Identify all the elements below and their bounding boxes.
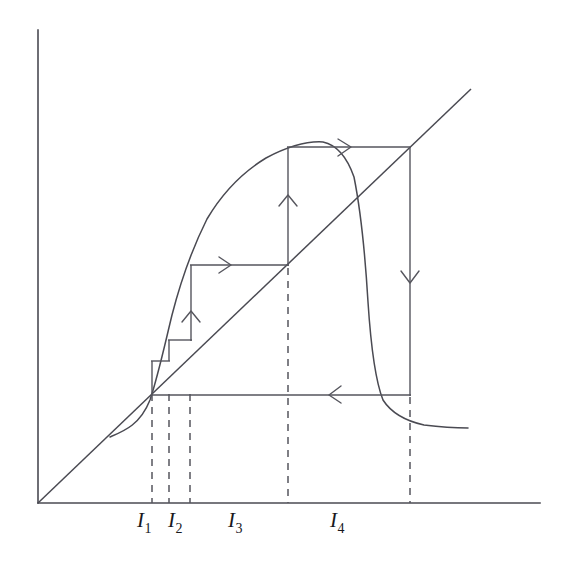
tick-label-I1-base: I xyxy=(137,508,144,532)
figure-canvas: I1 I2 I3 I4 xyxy=(0,0,565,574)
tick-label-I1: I1 xyxy=(137,508,152,537)
arrowheads-group xyxy=(182,139,419,403)
map-function-curve xyxy=(110,142,468,437)
tick-label-I3-sub: 3 xyxy=(235,521,243,536)
tick-label-I4-sub: 4 xyxy=(337,521,345,536)
tick-label-I2: I2 xyxy=(168,508,183,537)
tick-label-I2-sub: 2 xyxy=(175,521,183,536)
identity-diagonal-line xyxy=(38,89,471,503)
tick-label-I3: I3 xyxy=(228,508,243,537)
tick-label-I1-sub: 1 xyxy=(144,521,152,536)
tick-label-I3-base: I xyxy=(228,508,235,532)
tick-label-I4: I4 xyxy=(330,508,345,537)
cobweb-plot-svg xyxy=(0,0,565,574)
tick-label-I2-base: I xyxy=(168,508,175,532)
axes-group xyxy=(38,30,540,503)
tick-label-I4-base: I xyxy=(330,508,337,532)
